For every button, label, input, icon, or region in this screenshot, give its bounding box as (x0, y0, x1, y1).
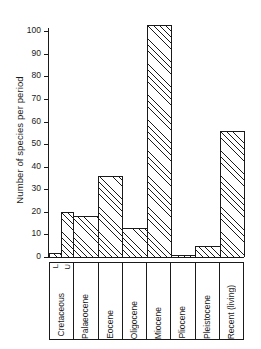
x-category-pliocene: Pliocene (171, 263, 195, 339)
y-tick-label: 80 (32, 70, 41, 81)
x-category-label-wrap: Miocene (147, 263, 170, 339)
bar (98, 176, 123, 257)
y-tick-label: 70 (32, 93, 41, 104)
y-tick: 80 (44, 76, 48, 77)
x-category-label: Eocene (106, 307, 115, 339)
x-category-label: Cretaceous (57, 290, 66, 336)
y-tick: 70 (44, 99, 48, 100)
x-category-palaeocene: Palaeocene (74, 263, 98, 339)
y-tick: 0 (44, 257, 48, 258)
y-tick-label: 50 (32, 138, 41, 149)
x-category-label: Recent (living) (227, 282, 236, 339)
x-category-label-wrap: Palaeocene (74, 263, 97, 339)
x-category-label-wrap: Cretaceous (50, 283, 73, 336)
y-tick: 20 (44, 212, 48, 213)
x-category-label-wrap: Pleistocene (196, 263, 219, 339)
y-tick: 60 (44, 122, 48, 123)
x-axis-line (48, 257, 244, 258)
x-subdivision-label: U (63, 264, 72, 269)
bar (147, 25, 172, 257)
bar (220, 131, 245, 257)
y-tick-label: 0 (36, 251, 41, 262)
y-tick-label: 90 (32, 48, 41, 59)
x-category-label-wrap: Oligocene (123, 263, 146, 339)
x-subdivision-u: U (62, 264, 74, 284)
x-category-cretaceous: LUCretaceous (50, 263, 74, 339)
y-tick: 50 (44, 144, 48, 145)
bar-series (49, 20, 244, 257)
y-tick: 90 (44, 54, 48, 55)
x-category-eocene: Eocene (99, 263, 123, 339)
y-axis-title-text: Number of species per period (14, 40, 25, 240)
y-tick-label: 60 (32, 116, 41, 127)
x-category-oligocene: Oligocene (123, 263, 147, 339)
y-tick-label: 100 (27, 25, 41, 36)
y-tick: 30 (44, 189, 48, 190)
bar (73, 216, 98, 257)
chart-figure: Number of species per period 10090807060… (0, 0, 261, 349)
x-category-pleistocene: Pleistocene (196, 263, 220, 339)
bar (171, 255, 196, 257)
y-tick-label: 30 (32, 183, 41, 194)
y-tick: 100 (44, 31, 48, 32)
x-subdivision-l: L (50, 264, 62, 284)
x-category-label-wrap: Eocene (99, 263, 122, 339)
y-tick-label: 40 (32, 161, 41, 172)
x-category-miocene: Miocene (147, 263, 171, 339)
bar (195, 246, 220, 257)
x-category-label: Oligocene (130, 298, 139, 339)
x-category-label-wrap: Pliocene (171, 263, 194, 339)
x-category-label: Pleistocene (203, 292, 212, 339)
x-subdivision-label: L (51, 264, 60, 268)
y-tick-label: 20 (32, 206, 41, 217)
x-category-label: Palaeocene (81, 291, 90, 339)
x-category-label-wrap: Recent (living) (220, 263, 243, 339)
plot-area: 1009080706050403020100 (48, 20, 244, 258)
x-category-label: Miocene (154, 304, 163, 339)
y-tick-label: 10 (32, 228, 41, 239)
x-axis-category-boxes: LUCretaceousPalaeoceneEoceneOligoceneMio… (49, 262, 244, 340)
y-tick: 40 (44, 167, 48, 168)
bar (122, 228, 147, 257)
y-tick: 10 (44, 234, 48, 235)
x-category-label: Pliocene (178, 303, 187, 339)
x-category-recent-living: Recent (living) (220, 263, 243, 339)
